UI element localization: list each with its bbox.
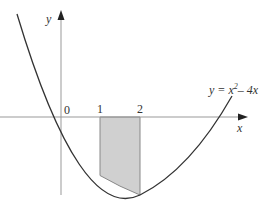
graph: y x 0 1 2 y = x2– 4x (0, 0, 265, 201)
x-axis-arrow-icon (238, 114, 248, 121)
x-axis-label: x (236, 121, 243, 135)
tick-label-2: 2 (137, 102, 143, 116)
y-axis-arrow-icon (58, 10, 65, 20)
shaded-area (100, 117, 140, 195)
y-axis-label: y (45, 12, 52, 26)
equation-label: y = x2– 4x (208, 82, 259, 97)
origin-label: 0 (64, 103, 70, 117)
tick-label-1: 1 (97, 102, 103, 116)
